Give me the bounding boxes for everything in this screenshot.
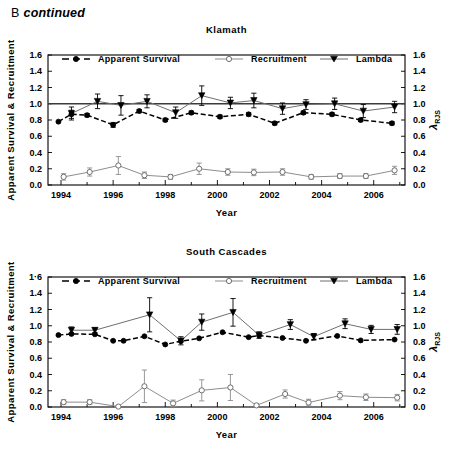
y-tick-label-right: 0.4 [413,370,426,380]
y-tick-label-left: 1.0 [29,321,42,331]
y-axis-title-left: Apparent Survival & Recruitment [5,261,16,423]
y-tick-label-left: 1.4 [29,66,42,76]
legend-label: Apparent Survival [98,54,180,64]
data-point-open-circle [87,400,92,405]
legend-marker-filled-circle [73,56,78,61]
data-point-filled-circle [121,338,126,343]
x-tick-label: 1996 [103,190,123,200]
legend-item-apparent-survival[interactable]: Apparent Survival [62,54,180,64]
data-point-filled-triangle-down [287,322,293,328]
data-point-open-circle [225,169,230,174]
y-tick-label-right: 0.6 [413,353,426,363]
legend-label: Apparent Survival [98,276,180,286]
data-point-filled-circle [389,121,394,126]
y-tick-label-left: 0.8 [29,337,42,347]
data-point-open-circle [228,385,233,390]
data-point-open-circle [142,384,147,389]
data-point-filled-circle [280,335,285,340]
legend-marker-open-circle [226,278,231,283]
legend-item-recruitment[interactable]: Recruitment [215,54,307,64]
data-point-filled-circle [335,333,340,338]
data-point-open-circle [254,403,259,408]
data-point-filled-circle [197,336,202,341]
data-point-open-circle [116,404,121,409]
data-point-open-circle [61,400,66,405]
chart-south-cascades: South CascadesApparent SurvivalRecruitme… [0,240,453,471]
data-point-filled-circle [358,338,363,343]
x-axis-title: Year [216,429,238,440]
data-point-open-circle [306,400,311,405]
data-point-open-circle [395,395,400,400]
data-point-filled-circle [272,121,277,126]
y-axis-title-right: λRJS [427,110,441,131]
data-point-filled-circle [56,333,61,338]
data-point-filled-circle [92,332,97,337]
series-apparent-survival [56,330,397,347]
svg-text:Apparent Survival & Recruitmen: Apparent Survival & Recruitment [5,39,16,201]
data-point-open-circle [197,166,202,171]
legend-label: Recruitment [251,54,307,64]
svg-text:South Cascades: South Cascades [186,246,267,257]
y-tick-label-left: 1.2 [29,305,42,315]
data-point-open-circle [280,169,285,174]
svg-text:Apparent Survival & Recruitmen: Apparent Survival & Recruitment [5,261,16,423]
y-tick-label-left: 0.2 [29,164,42,174]
data-point-filled-circle [69,331,74,336]
series-lambda [68,86,398,120]
chart-klamath: KlamathApparent SurvivalRecruitmentLambd… [0,18,453,240]
y-axis-title-right: λRJS [427,332,441,353]
x-tick-label: 2006 [364,190,384,200]
data-point-filled-circle [178,339,183,344]
y-tick-label-left: 0.0 [29,402,42,412]
data-point-filled-circle [257,333,262,338]
y-tick-label-right: 1.4 [413,66,426,76]
svg-text:Klamath: Klamath [206,24,247,35]
x-tick-label: 1994 [51,190,71,200]
x-axis-title: Year [216,207,238,218]
y-tick-label-right: 1.4 [413,288,426,298]
figure-page: Bcontinued KlamathApparent SurvivalRecru… [0,0,453,471]
data-point-filled-circle [303,338,308,343]
x-tick-label: 2000 [207,412,227,422]
data-point-open-circle [283,391,288,396]
data-point-filled-circle [137,109,142,114]
y-tick-label-right: 0.0 [413,402,426,412]
data-point-open-circle [199,388,204,393]
data-point-filled-circle [246,335,251,340]
data-point-filled-circle [220,330,225,335]
data-point-filled-circle [392,337,397,342]
y-tick-label-right: 0.6 [413,131,426,141]
y-tick-label-right: 1.0 [413,99,426,109]
y-tick-label-right: 0.0 [413,180,426,190]
y-tick-label-left: 1.2 [29,83,42,93]
legend-item-recruitment[interactable]: Recruitment [215,276,307,286]
data-point-open-circle [363,173,368,178]
data-point-open-circle [337,393,342,398]
data-point-open-circle [61,174,66,179]
series-recruitment [61,370,400,409]
data-point-filled-triangle-down [172,110,178,116]
y-tick-label-left: 0.8 [29,115,42,125]
data-point-filled-circle [69,112,74,117]
y-axis-title-left: Apparent Survival & Recruitment [5,39,16,201]
y-tick-label-right: 1.0 [413,321,426,331]
y-tick-label-right: 1.6 [413,50,426,60]
legend-item-lambda[interactable]: Lambda [320,54,393,64]
legend-item-apparent-survival[interactable]: Apparent Survival [62,276,180,286]
legend-label: Lambda [356,276,393,286]
series-recruitment [61,157,397,181]
data-point-open-circle [251,170,256,175]
data-point-filled-circle [85,113,90,118]
data-point-open-circle [392,168,397,173]
x-tick-label: 2002 [259,190,279,200]
x-tick-label: 2002 [259,412,279,422]
y-tick-label-right: 0.4 [413,148,426,158]
data-point-filled-circle [163,342,168,347]
data-point-filled-circle [358,118,363,123]
svg-text:λRJS: λRJS [427,332,441,353]
data-point-open-circle [309,174,314,179]
legend-item-lambda[interactable]: Lambda [320,276,393,286]
chart-legend: Apparent SurvivalRecruitmentLambda [62,276,393,286]
x-tick-label: 1996 [103,412,123,422]
chart-title: Klamath [206,24,247,35]
